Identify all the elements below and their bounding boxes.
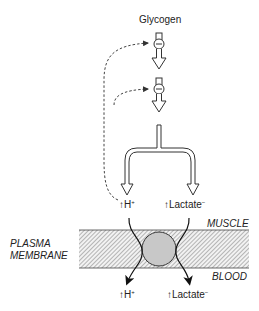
upper-h-label: ↑H+	[119, 199, 135, 210]
enzyme-step-1	[152, 33, 166, 69]
diagram-canvas	[0, 0, 259, 311]
lower-lactate-label: ↑Lactate−	[167, 289, 208, 300]
transporter-circle	[142, 232, 176, 266]
upper-lactate-label: ↑Lactate−	[164, 199, 205, 210]
muscle-label: MUSCLE	[207, 218, 249, 229]
branch-arrow	[121, 125, 199, 195]
glycogen-label: Glycogen	[139, 14, 181, 25]
membrane-label-1: PLASMA	[10, 238, 51, 249]
lower-h-label: ↑H+	[119, 289, 135, 300]
blood-label: BLOOD	[212, 271, 247, 282]
enzyme-step-2	[152, 78, 166, 112]
membrane-label-2: MEMBRANE	[10, 250, 68, 261]
